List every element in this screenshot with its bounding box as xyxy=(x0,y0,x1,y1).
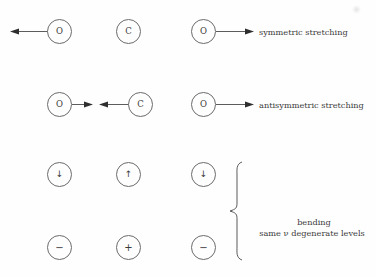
row3-atom-carbon-center: ↑ xyxy=(116,162,141,187)
brace-label-line2: same ν degenerate levels xyxy=(248,228,376,238)
row3-atom-oxygen-right: ↓ xyxy=(191,162,216,187)
minus-sign-icon: − xyxy=(199,243,207,253)
row1-atom3-displacement-arrow-right xyxy=(216,27,254,36)
row2-atom-carbon-center: C xyxy=(128,92,153,117)
row2-atom-oxygen-right: O xyxy=(191,92,216,117)
scan-artifact-smudge xyxy=(352,5,361,14)
row2-mode-label: antisymmetric stretching xyxy=(259,100,364,110)
row2-atom1-displacement-arrow-right xyxy=(72,100,93,109)
co2-vibrational-modes-figure: O C O symmetric stretching O C O xyxy=(0,0,376,277)
row2-atom3-displacement-arrow-right xyxy=(216,100,254,109)
plus-sign-icon: + xyxy=(124,243,132,253)
row3-atom-oxygen-left: ↓ xyxy=(47,162,72,187)
row2-atom2-displacement-arrow-left xyxy=(99,100,131,109)
arrow-down-icon: ↓ xyxy=(56,170,64,179)
row4-atom-oxygen-left: − xyxy=(47,235,72,260)
minus-sign-icon: − xyxy=(55,243,63,253)
atom-label-oxygen: O xyxy=(56,100,63,109)
row2-atom-oxygen-left: O xyxy=(47,92,72,117)
atom-label-oxygen: O xyxy=(56,27,63,36)
row4-atom-carbon-center: + xyxy=(116,235,141,260)
row1-atom-oxygen-right: O xyxy=(191,19,216,44)
bending-group-brace xyxy=(228,161,248,261)
arrow-up-icon: ↑ xyxy=(125,170,133,179)
row1-atom1-displacement-arrow-left xyxy=(10,27,48,36)
row1-mode-label: symmetric stretching xyxy=(259,27,348,37)
atom-label-oxygen: O xyxy=(200,100,207,109)
row1-atom-oxygen-left: O xyxy=(47,19,72,44)
brace-label-line1: bending xyxy=(259,217,369,227)
atom-label-carbon: C xyxy=(137,100,144,109)
atom-label-oxygen: O xyxy=(200,27,207,36)
atom-label-carbon: C xyxy=(125,27,132,36)
row4-atom-oxygen-right: − xyxy=(191,235,216,260)
row1-atom-carbon-center: C xyxy=(116,19,141,44)
arrow-down-icon: ↓ xyxy=(200,170,208,179)
